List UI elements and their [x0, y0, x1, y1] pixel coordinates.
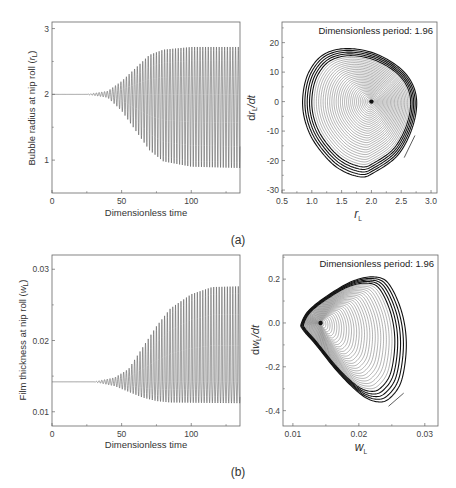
period-annotation: Dimensionless period: 1.96 — [318, 25, 433, 36]
panel-label-b: (b) — [231, 465, 246, 479]
plot-area-a-phase — [303, 49, 417, 178]
x-tick-label: 0.03 — [417, 429, 434, 439]
period-annotation: Dimensionless period: 1.96 — [319, 258, 434, 269]
chart-a-time: 050100123 Dimensionless time Bubble radi… — [26, 22, 240, 218]
x-axis-label: wL — [355, 440, 368, 455]
y-tick-label: -0.2 — [265, 362, 280, 372]
y-axis-label: Film thickness at nip roll (wL) — [17, 280, 29, 401]
x-tick-label: 0.01 — [285, 429, 302, 439]
x-tick-label: 100 — [184, 196, 198, 206]
series-line — [52, 47, 240, 168]
y-tick-label: -20 — [267, 156, 280, 166]
y-tick-label: 0 — [274, 97, 279, 107]
plot-area-b-time — [52, 286, 240, 403]
y-axis-label: drL/dt — [245, 94, 258, 121]
x-tick-label: 0.5 — [276, 196, 288, 206]
x-tick-label: 100 — [184, 429, 198, 439]
x-tick-label: 2.5 — [395, 196, 407, 206]
y-tick-label: 20 — [270, 38, 280, 48]
y-tick-label: 2 — [44, 89, 49, 99]
fixed-point — [318, 321, 322, 325]
x-tick-label: 2.0 — [366, 196, 378, 206]
fixed-point — [369, 99, 373, 103]
y-tick-label: -10 — [267, 126, 280, 136]
y-tick-label: 0.02 — [32, 336, 49, 346]
plot-area-a-time — [52, 47, 240, 168]
x-axis-label: Dimensionless time — [105, 439, 187, 450]
y-tick-label: -0.4 — [265, 406, 280, 416]
y-axis-label: dwL/dt — [249, 324, 262, 355]
x-tick-label: 3.0 — [425, 196, 437, 206]
y-tick-label: 10 — [270, 67, 280, 77]
x-axis-label: Dimensionless time — [105, 207, 187, 218]
figure: 050100123 Dimensionless time Bubble radi… — [0, 0, 456, 488]
chart-a-phase: 0.51.01.52.02.53.0-30-20-1001020 Dimensi… — [245, 22, 437, 222]
x-tick-label: 50 — [117, 196, 127, 206]
y-tick-label: 0.2 — [268, 274, 280, 284]
y-axis-label: Bubble radius at nip roll (rL) — [26, 50, 38, 165]
plot-area-b-phase — [301, 277, 407, 406]
panel-label-a: (a) — [231, 233, 246, 247]
chart-b-phase: 0.010.020.03-0.4-0.20.00.2 Dimensionless… — [249, 255, 438, 455]
ticks: 050100123 — [44, 24, 226, 206]
direction-arrow — [389, 393, 404, 406]
x-tick-label: 0.02 — [351, 429, 368, 439]
axes-frame — [52, 255, 240, 426]
x-tick-label: 0 — [50, 196, 55, 206]
chart-b-time: 0501000.010.020.03 Dimensionless time Fi… — [17, 255, 240, 450]
x-axis-label: rL — [354, 207, 362, 222]
x-tick-label: 1.0 — [306, 196, 318, 206]
y-tick-label: 0.01 — [32, 407, 49, 417]
y-tick-label: 0.03 — [32, 264, 49, 274]
y-tick-label: 0.0 — [268, 318, 280, 328]
trajectory-loop — [358, 92, 380, 116]
y-tick-label: 3 — [44, 24, 49, 34]
y-tick-label: 1 — [44, 155, 49, 165]
x-tick-label: 1.5 — [336, 196, 348, 206]
x-tick-label: 0 — [50, 429, 55, 439]
trajectory-loop — [319, 61, 407, 160]
y-tick-label: -30 — [267, 185, 280, 195]
series-line — [52, 286, 240, 403]
x-tick-label: 50 — [117, 429, 127, 439]
